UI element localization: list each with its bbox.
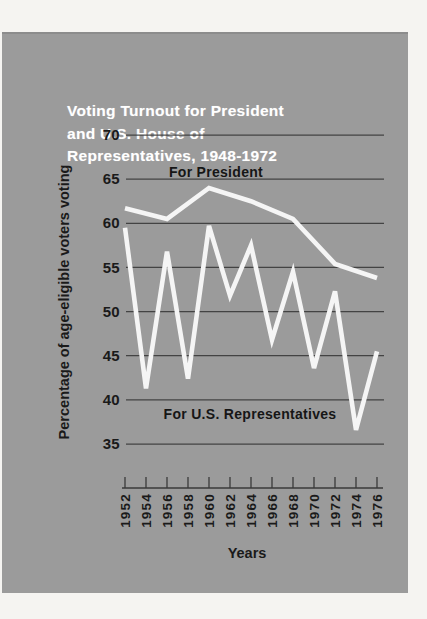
house-label: For U.S. Representatives bbox=[164, 406, 337, 422]
x-tick-label: 1976 bbox=[370, 493, 385, 528]
x-tick-label: 1958 bbox=[181, 493, 196, 528]
y-tick-label: 55 bbox=[103, 259, 120, 276]
x-tick-label: 1954 bbox=[139, 493, 154, 528]
president-label: For President bbox=[169, 164, 263, 180]
x-tick-label: 1962 bbox=[223, 493, 238, 528]
chart-svg: 7065605550454035195219541956195819601962… bbox=[0, 0, 427, 619]
x-tick-label: 1974 bbox=[349, 493, 364, 528]
x-tick-label: 1966 bbox=[265, 493, 280, 528]
x-tick-label: 1956 bbox=[160, 493, 175, 528]
y-tick-label: 35 bbox=[103, 435, 120, 452]
page-background: Voting Turnout for President and U.S. Ho… bbox=[0, 0, 427, 619]
x-tick-label: 1972 bbox=[328, 493, 343, 528]
y-tick-label: 45 bbox=[103, 347, 120, 364]
x-tick-label: 1960 bbox=[202, 493, 217, 528]
x-tick-label: 1970 bbox=[307, 493, 322, 528]
x-tick-label: 1952 bbox=[118, 493, 133, 528]
y-tick-label: 70 bbox=[103, 126, 120, 143]
y-tick-label: 50 bbox=[103, 303, 120, 320]
y-tick-label: 60 bbox=[103, 214, 120, 231]
x-tick-label: 1964 bbox=[244, 493, 259, 528]
x-tick-label: 1968 bbox=[286, 493, 301, 528]
y-tick-label: 40 bbox=[103, 391, 120, 408]
y-axis-title: Percentage of age-eligible voters voting bbox=[56, 165, 72, 440]
x-axis-title: Years bbox=[228, 545, 267, 561]
y-tick-label: 65 bbox=[103, 170, 120, 187]
